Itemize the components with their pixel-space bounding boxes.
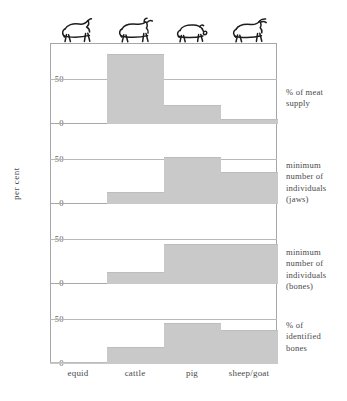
x-label-cattle: cattle [125,368,146,378]
panel-label-line: individuals [286,183,344,194]
chart-figure: per cent 50 0 50 0 50 0 50 0 equid cattl… [0,0,347,401]
bar-meat-supply-cattle [107,54,164,124]
bar-identified-bones-sheep-goat [221,330,278,364]
x-label-sheep-goat: sheep/goat [229,368,270,378]
gridline-p3-50 [50,239,277,240]
panel-label-line: % of meat [286,87,344,98]
panel-label-line: minimum [286,160,344,171]
cattle-icon [112,16,158,46]
bar-meat-supply-pig [164,105,221,124]
x-label-pig: pig [186,368,198,378]
y-axis-title: per cent [11,167,21,200]
panel-label-line: (jaws) [286,194,344,205]
panel-label-line: (bones) [286,281,344,292]
panel-label-line: % of [286,320,344,331]
bar-mni-bones-sheep-goat [221,244,278,284]
panel-label-mni-jaws: minimum number of individuals (jaws) [286,160,344,206]
panel-label-identified-bones: % of identified bones [286,320,344,354]
panel-label-line: identified [286,331,344,342]
x-label-equid: equid [68,368,89,378]
panel-label-line: bones [286,343,344,354]
plot-frame [50,43,277,363]
bar-mni-jaws-sheep-goat [221,172,278,204]
axis-line-top [50,43,277,44]
panel-label-line: supply [286,98,344,109]
bar-identified-bones-cattle [107,347,164,364]
bar-identified-bones-pig [164,323,221,364]
panel-label-line: minimum [286,247,344,258]
bar-identified-bones-equid [50,362,107,364]
panel-label-mni-bones: minimum number of individuals (bones) [286,247,344,293]
panel-label-meat-supply: % of meat supply [286,87,344,110]
bar-meat-supply-sheep-goat [221,119,278,124]
panel-label-line: number of [286,258,344,269]
gridline-p1-50 [50,79,277,80]
bar-mni-jaws-cattle [107,192,164,204]
gridline-p4-50 [50,319,277,320]
pig-icon [169,16,215,46]
horse-icon [55,16,101,46]
bar-mni-bones-pig [164,244,221,284]
sheep-goat-icon [226,16,272,46]
bar-mni-bones-cattle [107,272,164,284]
panel-label-line: number of [286,171,344,182]
panel-label-line: individuals [286,270,344,281]
bar-mni-jaws-pig [164,157,221,204]
